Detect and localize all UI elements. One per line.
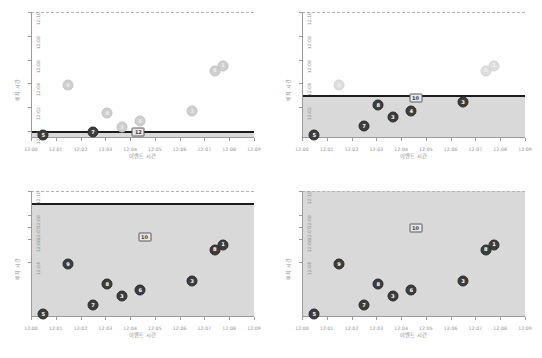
data-point-marker[interactable]: 8 (102, 108, 113, 119)
y-axis-line (31, 12, 32, 138)
chart-panel-bottom-left: 12:0012:0112:0212:0312:0412:0512:0612:07… (0, 179, 271, 358)
y-axis-tick (28, 191, 31, 192)
data-point-marker[interactable]: 5 (309, 130, 320, 141)
y-axis-line (302, 12, 303, 138)
x-axis-tick (81, 317, 82, 320)
y-axis-tick-label: 12:08 (307, 36, 312, 49)
data-point-marker[interactable]: 1 (489, 60, 500, 71)
data-point-marker[interactable]: 3 (187, 276, 198, 287)
y-axis-tick (28, 107, 31, 108)
data-point-marker[interactable]: 4 (406, 106, 417, 117)
y-axis-tick (28, 262, 31, 263)
data-point-marker[interactable]: 5 (38, 130, 49, 141)
y-axis-tick-label: 12:04 (36, 83, 41, 96)
y-axis-tick (28, 131, 31, 132)
data-point-marker[interactable]: 10 (409, 223, 422, 232)
plot-area: 12:0012:0112:0212:0312:0412:0512:0612:07… (302, 12, 525, 138)
y-axis-tick-label: 12:06 (36, 60, 41, 73)
y-axis-tick (28, 12, 31, 13)
y-axis-title: 배치 시간 (284, 79, 291, 101)
data-point-marker[interactable]: 3 (187, 106, 198, 117)
data-point-marker[interactable]: 7 (87, 127, 98, 138)
data-point-marker[interactable]: 9 (334, 80, 345, 91)
y-axis-tick-label: 12:08 (36, 36, 41, 49)
data-point-marker[interactable]: 5 (38, 309, 49, 320)
y-axis-tick (299, 36, 302, 37)
y-axis-tick (299, 262, 302, 263)
x-axis-tick (327, 138, 328, 141)
y-axis-tick-label: 12:06 (307, 239, 312, 252)
x-axis-tick (56, 138, 57, 141)
y-axis-tick-label: 12:06 (36, 239, 41, 252)
data-point-marker[interactable]: 3 (458, 97, 469, 108)
plot-region-unprocessed (31, 12, 254, 131)
data-point-marker[interactable]: 3 (387, 112, 398, 123)
plot-top-boundary (302, 12, 525, 13)
x-axis-tick (500, 317, 501, 320)
y-axis-tick-label: 12:10 (36, 191, 41, 204)
data-point-marker[interactable]: 1 (218, 239, 229, 250)
x-axis-tick (254, 317, 255, 320)
data-point-marker[interactable]: 3 (116, 122, 127, 133)
data-point-marker[interactable]: 6 (135, 116, 146, 127)
y-axis-title: 배치 시간 (13, 79, 20, 101)
data-point-marker[interactable]: 9 (63, 80, 74, 91)
x-axis-tick (475, 317, 476, 320)
x-axis-tick (180, 317, 181, 320)
x-axis-tick (130, 317, 131, 320)
y-axis-tick-label: 12:08 (307, 215, 312, 228)
x-axis-tick (475, 138, 476, 141)
x-axis-tick (254, 138, 255, 141)
data-point-marker[interactable]: 9 (334, 259, 345, 270)
x-axis-tick (525, 317, 526, 320)
data-point-marker[interactable]: 1 (218, 60, 229, 71)
data-point-marker[interactable]: 7 (358, 300, 369, 311)
x-axis-tick (451, 138, 452, 141)
x-axis-line (302, 137, 525, 138)
y-axis-title: 배치 시간 (284, 258, 291, 280)
y-axis-tick-label: 12:10 (36, 12, 41, 25)
x-axis-tick (302, 138, 303, 141)
data-point-marker[interactable]: 8 (102, 279, 113, 290)
x-axis-tick (229, 317, 230, 320)
x-axis-tick (327, 317, 328, 320)
data-point-marker[interactable]: 3 (387, 291, 398, 302)
watermark-threshold-line (31, 203, 254, 205)
data-point-marker[interactable]: 6 (135, 285, 146, 296)
x-axis-tick (155, 317, 156, 320)
y-axis-tick-label: 12:10 (307, 12, 312, 25)
data-point-marker[interactable]: 9 (63, 259, 74, 270)
data-point-marker[interactable]: 12 (132, 128, 145, 137)
data-point-marker[interactable]: 10 (138, 232, 151, 241)
plot-region-unprocessed (31, 191, 254, 203)
data-point-marker[interactable]: 5 (309, 309, 320, 320)
y-axis-tick (28, 36, 31, 37)
y-axis-line (31, 191, 32, 317)
data-point-marker[interactable]: 3 (458, 276, 469, 287)
data-point-marker[interactable]: 3 (116, 291, 127, 302)
y-axis-tick (299, 60, 302, 61)
y-axis-tick (299, 227, 302, 228)
data-point-marker[interactable]: 8 (373, 100, 384, 111)
x-axis-tick (204, 138, 205, 141)
y-axis-line (302, 191, 303, 317)
plot-top-boundary (302, 191, 525, 192)
y-axis-tick (28, 239, 31, 240)
data-point-marker[interactable]: 6 (406, 285, 417, 296)
x-axis-line (302, 316, 525, 317)
plot-area: 12:0012:0112:0212:0312:0412:0512:0612:07… (302, 191, 525, 317)
x-axis-tick (105, 138, 106, 141)
y-axis-tick-label: 12:04 (307, 262, 312, 275)
x-axis-tick (155, 138, 156, 141)
y-axis-tick (299, 215, 302, 216)
x-axis-title: 이벤트 시간 (31, 331, 254, 338)
data-point-marker[interactable]: 8 (373, 279, 384, 290)
data-point-marker[interactable]: 1 (489, 239, 500, 250)
y-axis-tick (299, 83, 302, 84)
data-point-marker[interactable]: 10 (409, 94, 422, 103)
y-axis-tick (28, 83, 31, 84)
data-point-marker[interactable]: 7 (87, 300, 98, 311)
data-point-marker[interactable]: 7 (358, 121, 369, 132)
y-axis-title-wrap: 배치 시간 (277, 265, 299, 272)
x-axis-tick (376, 317, 377, 320)
